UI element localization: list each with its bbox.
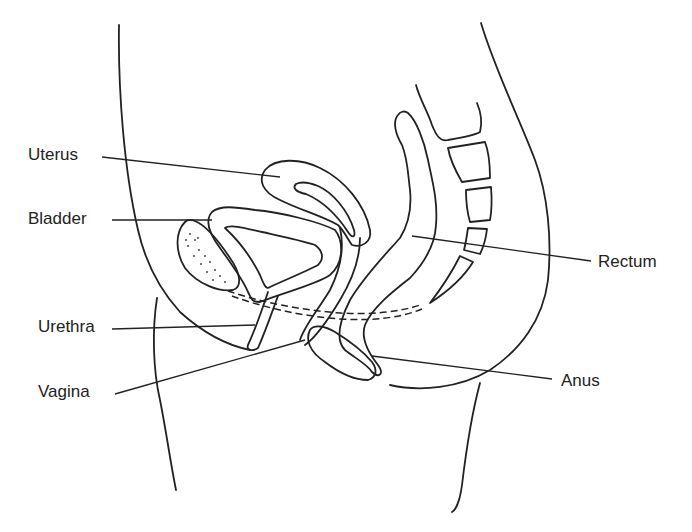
anatomy-diagram (0, 0, 692, 532)
body-outline-front (119, 25, 250, 350)
perineal-body (308, 326, 375, 380)
leader-anus (372, 356, 552, 379)
coccyx (430, 256, 473, 303)
vertebra-3 (464, 228, 487, 254)
leader-rectum (412, 236, 591, 261)
rectum-wall (340, 112, 437, 376)
leader-vagina (115, 340, 305, 394)
body-outline-back (390, 23, 549, 388)
back-thigh-outline (452, 383, 480, 512)
leader-urethra (112, 325, 255, 329)
label-rectum: Rectum (598, 253, 657, 270)
sacrum-line (416, 85, 481, 140)
pubic-bone (178, 220, 240, 290)
vertebra-1 (448, 142, 490, 182)
label-urethra: Urethra (38, 318, 95, 335)
label-bladder: Bladder (28, 210, 87, 227)
label-vagina: Vagina (38, 383, 90, 400)
vertebra-2 (466, 187, 492, 222)
vagina-canal (300, 228, 360, 345)
label-anus: Anus (561, 372, 600, 389)
label-uterus: Uterus (28, 146, 78, 163)
